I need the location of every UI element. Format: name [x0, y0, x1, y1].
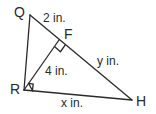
measure-fh: y in. — [97, 55, 119, 67]
vertex-label-q: Q — [14, 5, 25, 19]
vertex-label-f: F — [64, 27, 73, 41]
measure-rh: x in. — [61, 97, 83, 109]
right-angle-marker-f — [54, 45, 65, 52]
vertex-label-r: R — [10, 82, 20, 96]
side-qr — [24, 15, 30, 90]
vertex-label-h: H — [136, 94, 146, 108]
measure-qf: 2 in. — [43, 12, 66, 24]
triangle-diagram: Q R H F 2 in. 4 in. y in. x in. — [0, 0, 156, 114]
measure-rf: 4 in. — [45, 65, 68, 77]
